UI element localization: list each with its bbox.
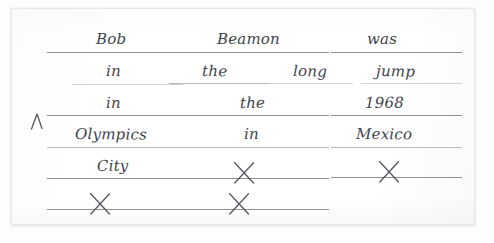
word-r2-c3: long (293, 64, 327, 80)
word-r4-c2: in (244, 127, 259, 142)
answer-line-r1-c2[interactable] (187, 52, 329, 53)
answer-line-r2-c4[interactable] (361, 83, 462, 84)
word-r2-c2: the (202, 64, 227, 79)
answer-line-r4-c2[interactable] (187, 147, 329, 148)
screenshot-root: BobBeamonwasinthelongjumpinthe1968Olympi… (0, 0, 494, 243)
word-r3-c2: the (240, 96, 265, 111)
answer-line-r2-c2[interactable] (169, 83, 269, 84)
answer-line-r3-c1[interactable] (47, 115, 202, 116)
answer-line-r1-c3[interactable] (331, 52, 462, 53)
answer-line-r1-c1[interactable] (47, 52, 202, 53)
word-r3-c3: 1968 (365, 96, 404, 111)
word-r1-c3: was (367, 32, 397, 47)
word-r2-c4: jump (376, 64, 415, 80)
word-r2-c1: in (106, 64, 121, 79)
answer-line-r5-c2[interactable] (187, 178, 329, 179)
paper-sheet: BobBeamonwasinthelongjumpinthe1968Olympi… (11, 8, 475, 225)
word-r3-c1: in (106, 96, 121, 111)
answer-line-r2-c1[interactable] (72, 84, 183, 85)
answer-line-r6-c1[interactable] (47, 209, 202, 210)
word-r5-c1: City (97, 159, 129, 174)
x-mark-r5-c3 (376, 159, 402, 185)
word-r1-c1: Bob (96, 32, 126, 47)
answer-line-r6-c2[interactable] (187, 209, 329, 210)
x-mark-r6-c1 (87, 191, 113, 217)
answer-line-r5-c1[interactable] (47, 178, 202, 179)
answer-line-r2-c3[interactable] (269, 83, 353, 84)
x-mark-r6-c2 (226, 191, 252, 217)
insertion-caret-icon (29, 111, 45, 131)
word-r4-c3: Mexico (356, 127, 412, 142)
x-mark-r5-c2 (231, 160, 257, 186)
answer-line-r3-c2[interactable] (187, 115, 329, 116)
answer-line-r4-c1[interactable] (47, 147, 202, 148)
word-r1-c2: Beamon (217, 32, 280, 47)
answer-line-r3-c3[interactable] (331, 115, 462, 116)
word-r4-c1: Olympics (75, 127, 147, 143)
answer-line-r4-c3[interactable] (331, 147, 462, 148)
